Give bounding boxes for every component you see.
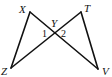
angle-label-2: 2 xyxy=(61,28,66,39)
vertex-label-t: T xyxy=(84,2,91,14)
angle-label-1: 1 xyxy=(42,28,47,39)
diagram-canvas: X T Y Z V 1 2 xyxy=(0,0,112,77)
vertex-label-y: Y xyxy=(51,17,59,29)
vertex-label-v: V xyxy=(102,65,110,77)
segment-xv xyxy=(30,12,98,69)
vertex-label-x: X xyxy=(18,3,27,15)
segment-tv xyxy=(81,12,98,69)
vertex-label-z: Z xyxy=(1,65,8,77)
geometry-diagram: X T Y Z V 1 2 xyxy=(0,0,112,77)
segment-tz xyxy=(11,12,81,68)
